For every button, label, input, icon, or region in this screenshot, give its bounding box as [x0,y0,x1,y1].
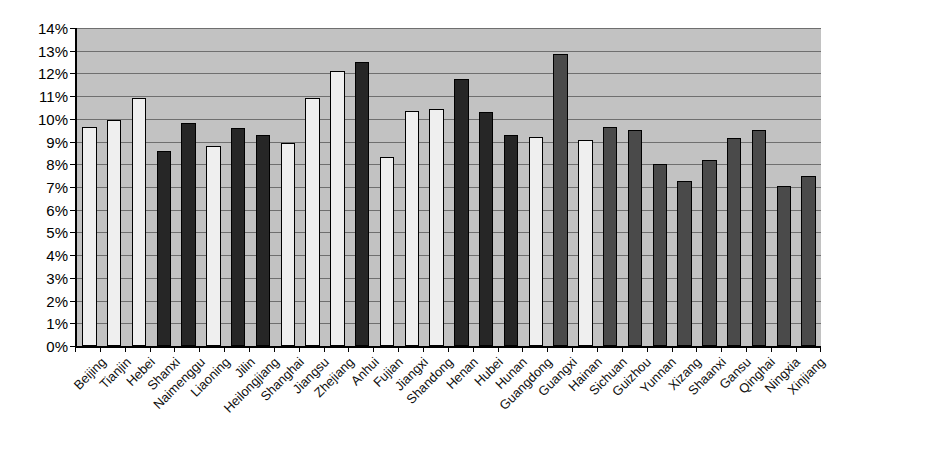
bar-slot [672,28,697,346]
bar[interactable] [380,157,394,346]
x-axis-tick-mark [448,346,473,353]
y-axis-tick-label: 4% [14,248,68,263]
x-axis-tick-mark [672,346,697,353]
bar-slot [722,28,747,346]
x-axis-tick-mark [746,346,771,353]
x-axis-tick-mark [796,346,821,353]
y-axis-tick-label: 7% [14,180,68,195]
y-axis-tick-label: 8% [14,157,68,172]
bar[interactable] [181,123,195,346]
bar-slot [275,28,300,346]
x-axis-tick-mark [373,346,398,353]
bar-slot [623,28,648,346]
x-axis-tick-mark [647,346,672,353]
bar-slot [697,28,722,346]
x-axis-ticks [75,346,821,353]
bar-slot [747,28,772,346]
y-axis: 14%13%12%11%10%9%8%7%6%5%4%3%2%1%0% [14,22,68,352]
bar[interactable] [702,160,716,346]
x-axis-tick-mark [721,346,746,353]
bar[interactable] [553,54,567,346]
bar-slot [102,28,127,346]
x-axis-tick-mark [199,346,224,353]
bar[interactable] [727,138,741,346]
x-axis-tick-mark [348,346,373,353]
bar-slot [647,28,672,346]
bar[interactable] [628,130,642,346]
bar[interactable] [677,181,691,346]
bar-slot [77,28,102,346]
bar[interactable] [206,146,220,346]
bar-slot [127,28,152,346]
bar[interactable] [653,164,667,346]
x-axis-tick-mark [224,346,249,353]
bars-layer [77,28,821,346]
bar-slot [201,28,226,346]
bar-slot [573,28,598,346]
bar-chart: 14%13%12%11%10%9%8%7%6%5%4%3%2%1%0% Beij… [0,0,928,472]
x-axis-tick-mark [100,346,125,353]
bar[interactable] [405,111,419,346]
y-axis-tick-label: 13% [14,43,68,58]
plot-area [75,28,821,348]
y-axis-tick-label: 9% [14,134,68,149]
bar-slot [424,28,449,346]
bar[interactable] [777,186,791,346]
x-axis-tick-mark [547,346,572,353]
bar-slot [325,28,350,346]
bar-slot [771,28,796,346]
bar[interactable] [231,128,245,346]
bar[interactable] [132,98,146,346]
bar-slot [176,28,201,346]
bar[interactable] [429,109,443,346]
x-axis-tick-mark [249,346,274,353]
bar[interactable] [107,120,121,346]
y-axis-tick-label: 12% [14,66,68,81]
y-axis-tick-label: 14% [14,21,68,36]
bar[interactable] [82,127,96,346]
x-axis-tick-mark [771,346,796,353]
bar-slot [796,28,821,346]
bar-slot [399,28,424,346]
bar-slot [375,28,400,346]
bar[interactable] [355,62,369,346]
bar[interactable] [479,112,493,346]
bar-slot [449,28,474,346]
y-axis-tick-label: 2% [14,293,68,308]
y-axis-tick-label: 11% [14,89,68,104]
bar[interactable] [529,137,543,346]
bar[interactable] [281,143,295,346]
y-axis-tick-label: 10% [14,111,68,126]
bar[interactable] [578,140,592,346]
x-axis-tick-mark [498,346,523,353]
x-axis-tick-mark [572,346,597,353]
x-axis-tick-mark [150,346,175,353]
bar[interactable] [157,151,171,346]
bar[interactable] [454,79,468,346]
x-axis-tick-mark [324,346,349,353]
x-axis-tick-mark [622,346,647,353]
bar-slot [598,28,623,346]
bar-slot [523,28,548,346]
x-axis-tick-mark [174,346,199,353]
bar[interactable] [752,130,766,346]
bar-slot [251,28,276,346]
bar[interactable] [305,98,319,346]
bar[interactable] [330,71,344,346]
bar-slot [151,28,176,346]
bar-slot [226,28,251,346]
bar[interactable] [504,135,518,346]
bar[interactable] [256,135,270,346]
y-axis-tick-label: 3% [14,270,68,285]
x-axis-tick-mark [75,346,100,353]
bar[interactable] [603,127,617,346]
x-axis-tick-mark [125,346,150,353]
x-axis-tick-mark [522,346,547,353]
bar-slot [300,28,325,346]
x-axis-tick-mark [274,346,299,353]
x-axis-tick-mark [299,346,324,353]
y-axis-tick-label: 0% [14,339,68,354]
x-axis-tick-mark [398,346,423,353]
bar-slot [548,28,573,346]
bar[interactable] [801,176,815,346]
